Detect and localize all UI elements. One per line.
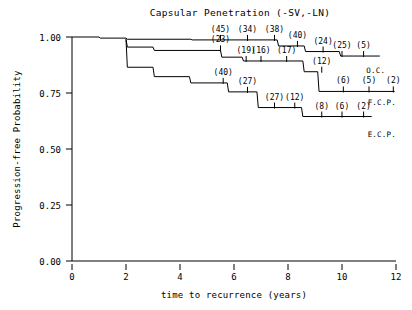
- x-axis-title: time to recurrence (years): [161, 290, 307, 300]
- at-risk-count: (6): [335, 102, 349, 111]
- chart-title: Capsular Penetration (-SV,-LN): [150, 7, 331, 18]
- kaplan-meier-chart: Capsular Penetration (-SV,-LN)0.000.250.…: [0, 0, 412, 310]
- y-axis-title: Progression-free Probability: [12, 70, 22, 228]
- axis-spines: [72, 37, 396, 261]
- x-tick-label: 4: [177, 272, 182, 282]
- y-tick-label: 0.25: [39, 201, 61, 211]
- at-risk-count: (24): [313, 37, 332, 46]
- y-tick-label: 0.75: [39, 89, 61, 99]
- at-risk-count: (2): [356, 102, 370, 111]
- curve-label-ecp: E.C.P.: [368, 130, 396, 139]
- at-risk-count: (5): [356, 41, 370, 50]
- at-risk-count: (38): [265, 25, 284, 34]
- y-tick-label: 0.50: [39, 145, 61, 155]
- at-risk-count: (16): [251, 46, 270, 55]
- at-risk-count: (23): [211, 35, 230, 44]
- x-tick-label: 6: [231, 272, 236, 282]
- at-risk-count: (2): [386, 76, 400, 85]
- x-tick-label: 10: [337, 272, 348, 282]
- x-tick-label: 8: [285, 272, 290, 282]
- at-risk-count: (12): [312, 57, 331, 66]
- at-risk-count: (17): [277, 46, 296, 55]
- at-risk-count: (25): [332, 41, 351, 50]
- at-risk-count: (34): [238, 25, 257, 34]
- at-risk-count: (27): [265, 93, 284, 102]
- at-risk-count: (5): [362, 76, 376, 85]
- at-risk-count: (40): [288, 31, 307, 40]
- curve-label-oc: O.C.: [366, 66, 385, 75]
- chart-canvas: Capsular Penetration (-SV,-LN)0.000.250.…: [0, 0, 412, 310]
- x-tick-label: 12: [391, 272, 402, 282]
- x-tick-label: 0: [69, 272, 74, 282]
- at-risk-count: (45): [211, 25, 230, 34]
- at-risk-count: (12): [285, 93, 304, 102]
- y-tick-label: 0.00: [39, 257, 61, 267]
- curve-label-fcp: F.C.P.: [368, 98, 396, 107]
- at-risk-count: (40): [214, 68, 233, 77]
- x-tick-label: 2: [123, 272, 128, 282]
- y-tick-label: 1.00: [39, 33, 61, 43]
- at-risk-count: (8): [315, 102, 329, 111]
- at-risk-count: (27): [238, 77, 257, 86]
- at-risk-count: (6): [336, 76, 350, 85]
